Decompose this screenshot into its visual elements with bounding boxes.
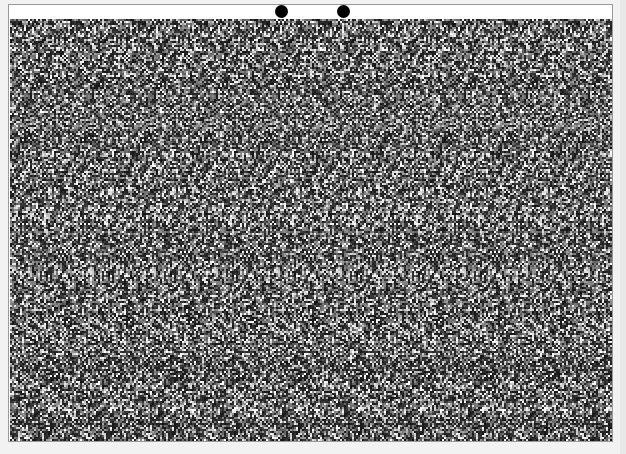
page-edge (620, 0, 626, 454)
stereogram-frame (8, 4, 613, 442)
left-fusion-dot (275, 5, 288, 18)
right-fusion-dot (337, 5, 350, 18)
random-dot-stereogram-image (10, 19, 612, 441)
